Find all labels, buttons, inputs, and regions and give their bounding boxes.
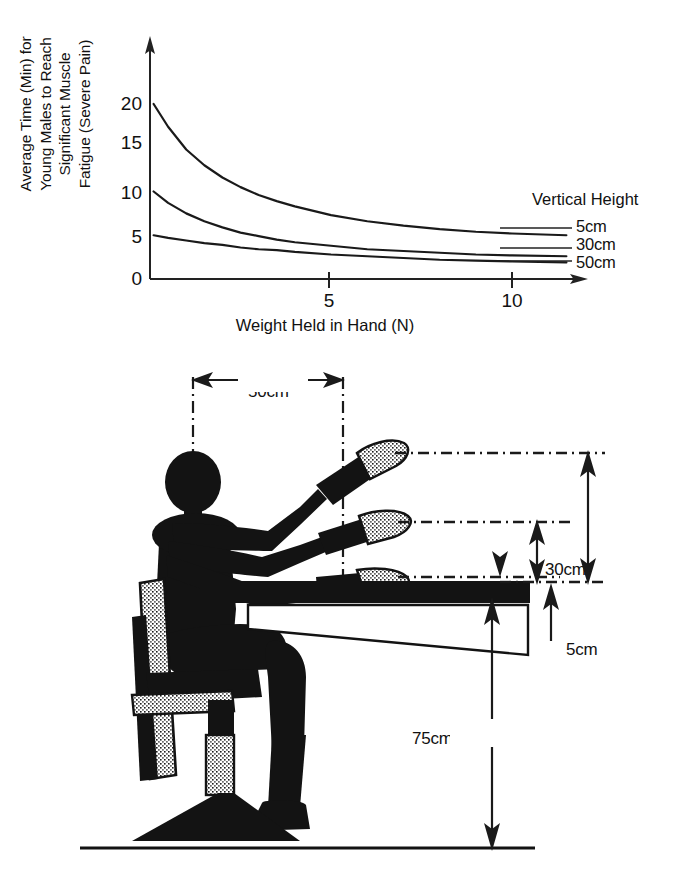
person-lower-leg	[266, 641, 307, 751]
dim-arrow-30cm-aux	[492, 551, 508, 577]
chair-cylinder-top	[208, 700, 234, 738]
dim-text-gap-reach	[238, 368, 308, 392]
dim-height-50cm	[580, 450, 674, 585]
diagram-svg	[0, 355, 690, 878]
chart-curve-5cm	[154, 104, 567, 235]
dim-text-gap-75cm	[450, 719, 534, 747]
arm-middle-hand	[359, 511, 411, 544]
chart-curves	[154, 104, 567, 262]
person-shin	[268, 735, 306, 807]
person-head	[165, 451, 221, 513]
chair-cylinder	[206, 735, 234, 795]
dim-height-5cm	[543, 583, 559, 641]
dim-text-gap-50cm	[598, 498, 674, 524]
desk-top	[200, 581, 530, 603]
ergonomics-figure: Average Time (Min) forYoung Males to Rea…	[0, 0, 690, 878]
dim-height-30cm	[492, 519, 545, 585]
chart-svg	[0, 0, 690, 340]
chart-curve-30cm	[154, 192, 567, 257]
